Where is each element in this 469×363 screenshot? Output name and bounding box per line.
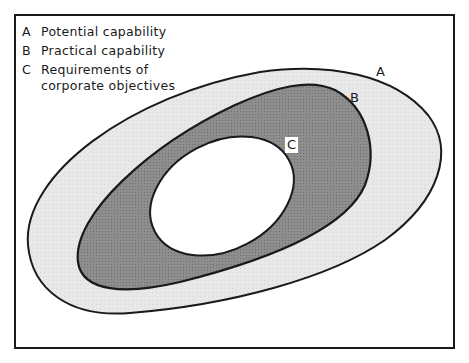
label-c: C — [285, 137, 298, 153]
legend-text: Requirements of corporate objectives — [41, 62, 175, 94]
label-a: A — [376, 65, 385, 79]
legend: A Potential capability B Practical capab… — [22, 22, 175, 94]
label-b: B — [350, 91, 359, 105]
legend-item-a: A Potential capability — [22, 22, 175, 41]
legend-item-c: C Requirements of corporate objectives — [22, 62, 175, 94]
legend-key: B — [22, 41, 41, 60]
legend-text: Practical capability — [41, 41, 165, 60]
legend-key: C — [22, 62, 41, 94]
legend-item-b: B Practical capability — [22, 41, 175, 60]
legend-text: Potential capability — [41, 22, 167, 41]
legend-key: A — [22, 22, 41, 41]
